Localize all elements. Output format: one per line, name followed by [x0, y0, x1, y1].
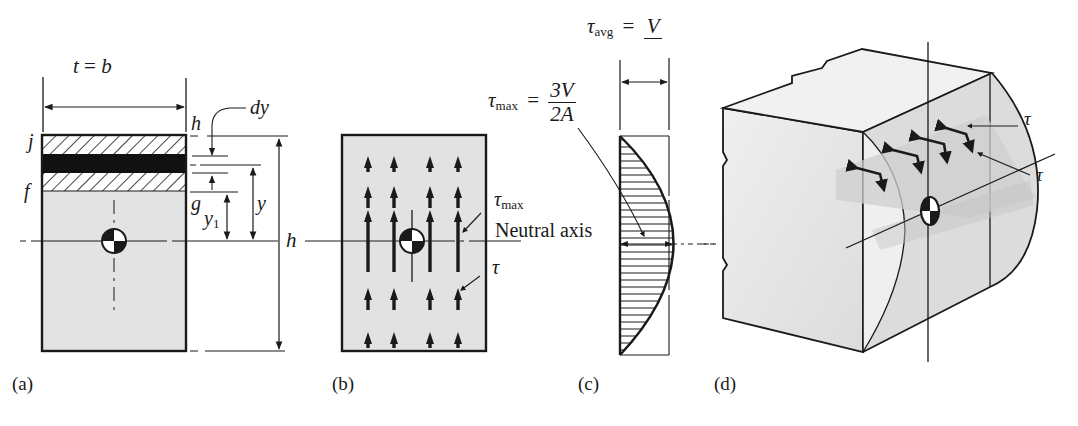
tau-top-label-d: τ	[1024, 108, 1031, 130]
centroid-icon	[102, 229, 126, 253]
tau-label-b: τ	[492, 256, 499, 279]
label-h-height: h	[286, 228, 297, 253]
label-g: g	[191, 192, 201, 215]
panel-d-isometric-beam	[700, 42, 1055, 362]
panel-b-stress-distribution	[305, 135, 521, 351]
label-h-top: h	[191, 112, 201, 135]
caption-b: (b)	[332, 373, 354, 395]
shear-stress-figure	[0, 0, 1078, 426]
tau-bottom-label-d: τ	[1036, 164, 1043, 186]
neutral-axis-label: Neutral axis	[495, 219, 592, 242]
caption-d: (d)	[714, 373, 736, 395]
label-j: j	[28, 130, 34, 153]
label-y: y	[257, 192, 266, 215]
panel-a-cross-section	[20, 77, 288, 351]
caption-c: (c)	[578, 373, 599, 395]
centroid-icon	[400, 229, 424, 253]
label-y1: y1	[204, 207, 219, 232]
width-label: t = b	[73, 54, 112, 79]
panel-c-parabolic-profile	[578, 58, 720, 355]
centroid-icon	[921, 197, 939, 225]
tau-avg-equation: τavg = V	[587, 14, 662, 40]
label-dy: dy	[250, 96, 269, 119]
caption-a: (a)	[12, 373, 33, 395]
tau-max-label-b: τmax	[494, 188, 524, 213]
label-f: f	[24, 180, 30, 203]
tau-max-equation: τmax = 3V2A	[488, 80, 576, 125]
